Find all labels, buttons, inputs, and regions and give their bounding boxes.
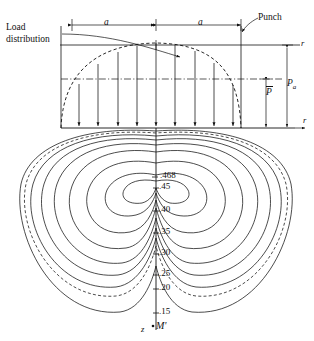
punch-leader [242,18,258,32]
contour-label-020: .20 [159,282,170,292]
r-axis-label-bottom: r [303,115,306,125]
leader-lines [62,18,258,57]
punch-label: Punch [258,12,282,22]
pressure-arrows [79,43,233,126]
contour-label-0468: .468 [160,170,176,180]
contour-label-040: .40 [159,204,170,214]
dimension-row [72,19,241,31]
contour-label-045: .45 [159,181,170,191]
load-distribution-leader [62,34,180,57]
contour-label-030: .30 [159,247,170,257]
point-m-marker [152,325,155,328]
point-m-label: M' [156,320,166,331]
punch-stress-contour-figure [0,0,314,341]
contour-label-025: .25 [159,268,170,278]
punch-body [60,26,300,128]
contour-label-015: .15 [159,306,170,316]
z-axis-label: z [141,324,144,334]
pbar-text: P [266,87,272,97]
pa-subscript: a [293,83,297,91]
mean-pressure-label: P [266,86,273,97]
dimension-label-right: a [198,17,203,27]
load-distribution-line1: Load [6,22,50,34]
load-distribution-line2: distribution [6,34,50,46]
contour-label-035: .35 [159,226,170,236]
load-distribution-label: Load distribution [6,22,50,45]
dimension-label-left: a [104,17,109,27]
average-pressure-label: Pa [287,78,296,91]
r-axis-label-top: r [301,38,304,48]
